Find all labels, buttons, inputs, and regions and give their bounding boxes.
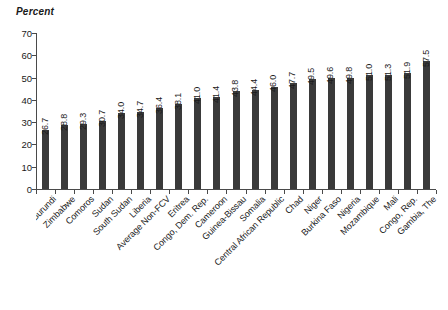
x-axis-category-label: Chad [283, 194, 305, 216]
cutoff-header-remnant: · · · [0, 0, 448, 5]
bar [233, 91, 240, 189]
bar-value-label: 28.8 [59, 114, 69, 131]
bar [61, 125, 68, 189]
cutoff-header-text: · · · [95, 0, 109, 1]
y-axis-tick-mark [32, 144, 36, 145]
y-axis-tick-mark [32, 167, 36, 168]
y-axis-title: Percent [16, 6, 54, 17]
y-axis-tick-label: 50 [21, 72, 32, 83]
bar [118, 113, 125, 189]
bar-value-label: 43.8 [230, 80, 240, 97]
bar-value-label: 36.4 [154, 97, 164, 114]
bar [385, 75, 392, 189]
bar-value-label: 49.5 [306, 68, 316, 85]
bar [194, 98, 201, 189]
bar [328, 78, 335, 189]
x-axis-line [36, 189, 436, 190]
y-axis-tick-mark [32, 122, 36, 123]
bar-value-label: 47.7 [287, 72, 297, 89]
bar [271, 87, 278, 190]
bar [404, 73, 411, 189]
bar-value-label: 51.3 [383, 64, 393, 81]
x-axis-category-labels: BurundiZimbabweComorosSudanSouth SudanLi… [36, 192, 448, 310]
bar [252, 90, 259, 189]
bar [366, 75, 373, 189]
y-axis-tick-label: 60 [21, 50, 32, 61]
bar-value-label: 51.9 [402, 62, 412, 79]
bar-value-label: 49.8 [344, 67, 354, 84]
bar-value-label: 44.4 [249, 79, 259, 96]
bar-value-label: 49.6 [325, 67, 335, 84]
bar-value-label: 41.4 [211, 86, 221, 103]
bar-value-label: 34.7 [135, 101, 145, 118]
bar [213, 97, 220, 189]
bar [80, 124, 87, 189]
bar-value-label: 51.0 [364, 64, 374, 81]
bar [290, 83, 297, 189]
y-axis-tick-mark [32, 55, 36, 56]
bar-value-label: 57.5 [421, 50, 431, 67]
bar-chart: · · · Percent 010203040506070 26.728.829… [0, 0, 448, 310]
bar-value-label: 26.7 [40, 118, 50, 135]
y-axis-tick-label: 10 [21, 161, 32, 172]
plot-area: 010203040506070 26.728.829.330.734.034.7… [36, 33, 436, 189]
bar [347, 78, 354, 189]
bar-value-label: 29.3 [78, 113, 88, 130]
y-axis-tick-label: 40 [21, 94, 32, 105]
bar-value-label: 34.0 [116, 102, 126, 119]
bar [42, 130, 49, 190]
y-axis-tick-label: 70 [21, 28, 32, 39]
bar [99, 121, 106, 189]
bar-value-label: 38.1 [173, 93, 183, 110]
bar-value-label: 41.0 [192, 87, 202, 104]
y-axis-tick-label: 30 [21, 117, 32, 128]
bar [156, 108, 163, 189]
bar [423, 61, 430, 189]
bar-value-label: 30.7 [97, 109, 107, 126]
y-axis-tick-mark [32, 33, 36, 34]
bar [309, 79, 316, 189]
y-axis-tick-mark [32, 78, 36, 79]
bar [137, 112, 144, 189]
y-axis-tick-label: 20 [21, 139, 32, 150]
y-axis-line [36, 33, 37, 189]
bar-value-label: 46.0 [268, 75, 278, 92]
y-axis-tick-mark [32, 100, 36, 101]
y-axis-tick-labels: 010203040506070 [2, 33, 32, 189]
bar [175, 104, 182, 189]
